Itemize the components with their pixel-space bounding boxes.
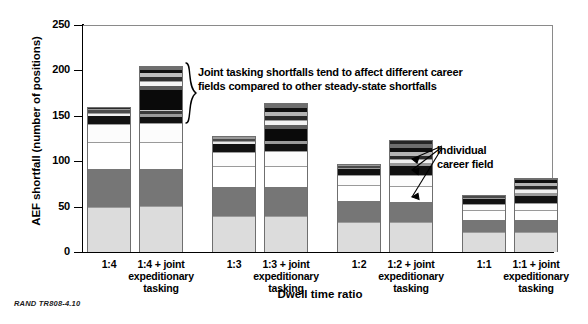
bar-segment	[213, 152, 255, 166]
bar-segment	[265, 144, 307, 151]
bar-segment	[140, 142, 182, 169]
bar-segment	[213, 216, 255, 252]
x-axis-tick-label-line: tasking	[118, 282, 204, 294]
bar-8[interactable]	[514, 178, 558, 252]
bar-segment	[338, 185, 380, 201]
individual-career-field-annotation: Individual career field	[437, 143, 537, 171]
bar-segment	[140, 123, 182, 142]
joint-tasking-annotation-line1: Joint tasking shortfalls tend to affect …	[198, 65, 488, 79]
bar-7[interactable]	[462, 195, 506, 252]
bars-layer	[83, 25, 553, 252]
bar-segment	[88, 124, 130, 142]
y-axis-tick-label: 50	[24, 201, 70, 212]
x-axis-tick-label-line: expeditionary	[243, 270, 329, 282]
bar-segment	[338, 222, 380, 252]
bar-5[interactable]	[337, 164, 381, 252]
bar-segment	[515, 210, 557, 220]
bar-segment	[515, 203, 557, 210]
individual-career-field-annotation-line1: Individual	[437, 143, 537, 157]
bar-segment	[265, 151, 307, 166]
y-axis-tick-label: 100	[24, 155, 70, 166]
bar-segment	[338, 175, 380, 185]
bar-segment	[88, 169, 130, 206]
bar-segment	[213, 187, 255, 216]
bar-4[interactable]	[264, 103, 308, 252]
bar-segment	[213, 166, 255, 187]
bar-segment	[390, 222, 432, 252]
x-axis-tick-label-line: tasking	[493, 282, 579, 294]
bar-2[interactable]	[139, 66, 183, 252]
y-axis-tick-label: 0	[24, 246, 70, 257]
bar-segment	[463, 220, 505, 232]
x-axis-tick-label-line: expeditionary	[368, 270, 454, 282]
x-axis-tick-label-line: expeditionary	[118, 270, 204, 282]
bar-segment	[140, 169, 182, 205]
figure-root: AEF shortfall (number of positions) 0501…	[0, 0, 588, 324]
joint-tasking-annotation-line2: fields compared to other steady-state sh…	[198, 79, 488, 93]
y-axis-tick-label: 150	[24, 110, 70, 121]
individual-career-field-annotation-line2: career field	[437, 157, 537, 171]
bar-segment	[265, 187, 307, 216]
bar-segment	[88, 207, 130, 252]
x-axis-title: Dwell time ratio	[250, 288, 390, 300]
bar-segment	[140, 90, 182, 110]
bar-segment	[265, 166, 307, 187]
bar-3[interactable]	[212, 136, 256, 252]
x-axis-tick-label-line: expeditionary	[493, 270, 579, 282]
bar-segment	[515, 196, 557, 203]
bar-segment	[265, 216, 307, 252]
y-axis-tick-label: 250	[24, 19, 70, 30]
bar-segment	[213, 144, 255, 152]
figure-footnote: RAND TR808-4.10	[14, 299, 80, 308]
y-axis-tick-label: 200	[24, 64, 70, 75]
bar-segment	[265, 129, 307, 142]
joint-tasking-annotation: Joint tasking shortfalls tend to affect …	[198, 65, 488, 93]
bar-segment	[515, 232, 557, 252]
bar-segment	[88, 116, 130, 124]
bar-segment	[140, 206, 182, 252]
bar-1[interactable]	[87, 107, 131, 252]
bar-segment	[88, 142, 130, 169]
x-axis-tick-label-line: 1:1 + joint	[493, 258, 579, 270]
bar-segment	[338, 201, 380, 222]
bar-segment	[515, 220, 557, 232]
x-axis-tick-label: 1:1 + jointexpeditionarytasking	[493, 258, 579, 295]
bar-segment	[463, 210, 505, 220]
bar-segment	[463, 232, 505, 252]
